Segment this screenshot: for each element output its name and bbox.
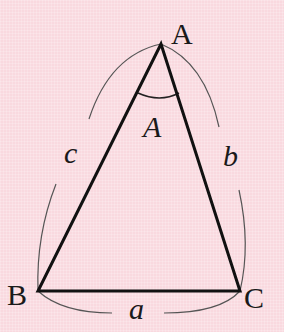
side-label-b: b bbox=[223, 139, 238, 172]
arc-side-c-upper bbox=[89, 44, 161, 119]
vertex-label-a: A bbox=[171, 17, 193, 50]
arc-side-b-lower bbox=[239, 190, 245, 291]
vertex-label-c: C bbox=[244, 281, 264, 314]
angle-label-a: A bbox=[141, 110, 162, 143]
triangle-figure: A A B C c b a bbox=[0, 0, 284, 332]
vertex-label-b: B bbox=[7, 278, 27, 311]
triangle-diagram: A A B C c b a bbox=[0, 0, 284, 332]
arc-side-a-left bbox=[38, 291, 112, 313]
angle-arc-a bbox=[138, 93, 179, 98]
side-label-c: c bbox=[64, 136, 77, 169]
arc-side-b-upper bbox=[161, 44, 219, 127]
side-label-a: a bbox=[129, 292, 144, 325]
arc-side-a-right bbox=[164, 291, 240, 313]
